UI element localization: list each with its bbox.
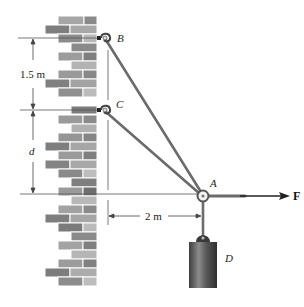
- ring-A: [198, 191, 209, 202]
- point-label-C: C: [116, 98, 124, 110]
- statics-diagram: 1.5 m d 2 m F B C A: [0, 0, 304, 307]
- dimension-label-1-5m: 1.5 m: [20, 68, 46, 80]
- point-label-B: B: [117, 32, 124, 44]
- dimension-label-2m: 2 m: [145, 210, 162, 222]
- force-arrow-F: [240, 192, 290, 200]
- dimension-label-d: d: [29, 145, 35, 157]
- weight-D: [189, 235, 217, 288]
- brick-wall: [45, 16, 97, 286]
- point-label-A: A: [209, 177, 217, 189]
- vertical-dimension: [31, 39, 35, 193]
- anchor-B: [97, 34, 110, 42]
- point-label-D: D: [224, 252, 233, 264]
- reference-lines: [18, 38, 200, 225]
- force-label-F: F: [293, 189, 300, 203]
- cables: [106, 40, 245, 236]
- anchor-C: [97, 106, 110, 114]
